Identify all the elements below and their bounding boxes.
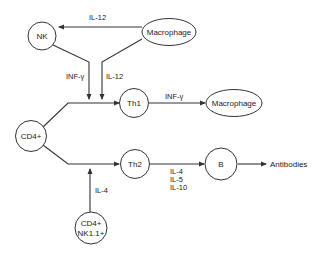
node-macrophage-right-label: Macrophage — [212, 99, 257, 108]
node-nk: NK — [28, 22, 56, 50]
node-th1: Th1 — [120, 89, 149, 118]
node-cd4-label: CD4+ — [21, 132, 42, 141]
edge-cd4-to-th2 — [43, 145, 119, 164]
node-macrophage-top: Macrophage — [142, 19, 196, 46]
label-il4: IL-4 — [95, 186, 108, 195]
node-cd4-nk11-label-line1: CD4+ — [81, 219, 102, 228]
label-infg-left: INF-γ — [66, 72, 85, 81]
edge-cd4-to-th1 — [43, 103, 119, 127]
label-il12-top: IL-12 — [89, 13, 106, 22]
label-infg-right: INF-γ — [165, 92, 184, 101]
node-cd4-nk11-label-line2: NK1.1+ — [78, 229, 105, 238]
node-th2-label: Th2 — [128, 160, 142, 169]
label-il10-th2b: IL-10 — [170, 183, 187, 192]
node-macrophage-top-label: Macrophage — [147, 28, 192, 37]
node-cd4-nk11: CD4+ NK1.1+ — [75, 212, 107, 244]
node-b: B — [205, 148, 237, 180]
node-th2: Th2 — [121, 150, 150, 179]
node-macrophage-right: Macrophage — [206, 90, 262, 117]
node-th1-label: Th1 — [127, 99, 141, 108]
label-il12-mid: IL-12 — [106, 72, 123, 81]
node-b-label: B — [218, 160, 223, 169]
node-cd4: CD4+ — [16, 121, 47, 152]
node-nk-label: NK — [36, 32, 48, 41]
antibodies-label: Antibodies — [270, 160, 307, 169]
immune-pathway-diagram: IL-12 INF-γ IL-12 INF-γ IL-4 IL-4 IL-5 I… — [0, 0, 325, 253]
